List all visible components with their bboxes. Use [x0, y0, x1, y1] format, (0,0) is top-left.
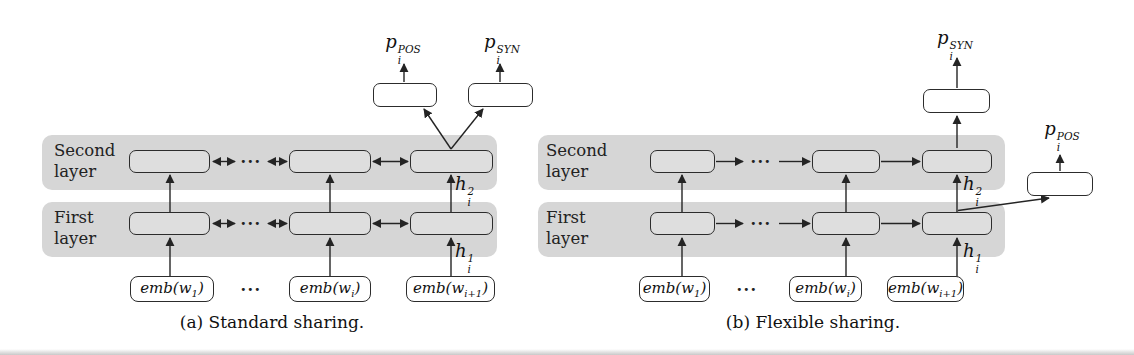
panel-a-h2-label: h2i: [455, 173, 474, 208]
panel-a-h1-label: h1i: [455, 240, 474, 275]
panel-a-second-layer-label: Second layer: [54, 141, 115, 182]
emb-wi-label: emb(wi): [795, 279, 855, 299]
math-base: h: [455, 173, 467, 194]
panel-b-caption: (b) Flexible sharing.: [726, 312, 900, 332]
math-sub: i: [976, 197, 979, 208]
math-sub: i: [468, 264, 471, 275]
math-base: h: [963, 240, 975, 261]
panel-b-first-layer-label: First layer: [546, 208, 588, 249]
panel-a-p-syn-label: pSYNi: [484, 31, 520, 66]
math-base: p: [937, 27, 949, 48]
ellipsis: ···: [240, 214, 261, 233]
math-sup: SYN: [497, 44, 520, 55]
panel-b-rnn-node: [650, 150, 715, 173]
math-sub: i: [976, 264, 979, 275]
figure-canvas: Second layer First layer ··· ··· ··· pPO…: [0, 0, 1134, 355]
panel-b-emb-w1-box: emb(w1): [639, 276, 710, 302]
ellipsis: ···: [750, 214, 771, 233]
panel-b-pos-output-box: [1027, 172, 1093, 196]
math-sub: i: [950, 51, 953, 62]
emb-w1-label: emb(w1): [140, 279, 204, 299]
panel-b-rnn-node: [922, 150, 992, 173]
ellipsis: ···: [750, 152, 771, 171]
panel-b-p-pos-label: pPOSi: [1044, 118, 1079, 153]
math-sub: i: [497, 55, 500, 66]
panel-b-p-syn-label: pSYNi: [937, 27, 973, 62]
ellipsis: ···: [240, 280, 261, 299]
panel-a-rnn-node: [289, 212, 371, 235]
math-base: p: [484, 31, 496, 52]
panel-a-rnn-node: [410, 212, 493, 235]
panel-a-pos-output-box: [373, 83, 437, 107]
panel-a-rnn-node: [410, 150, 493, 173]
panel-a-emb-wi1-box: emb(wi+1): [406, 276, 495, 302]
emb-w1-label: emb(w1): [643, 279, 707, 299]
panel-b-h1-label: h1i: [963, 240, 982, 275]
math-base: h: [455, 240, 467, 261]
math-sub: i: [468, 197, 471, 208]
panel-a-syn-output-box: [468, 83, 533, 107]
panel-a-emb-wi-box: emb(wi): [289, 276, 371, 302]
emb-wi-label: emb(wi): [300, 279, 360, 299]
panel-b-syn-output-box: [923, 89, 990, 113]
panel-b-rnn-node: [650, 212, 715, 235]
panel-a-rnn-node: [129, 150, 210, 173]
math-base: p: [385, 31, 397, 52]
math-sub: i: [1057, 142, 1060, 153]
panel-b-emb-wi-box: emb(wi): [789, 276, 862, 302]
math-sup: POS: [1057, 131, 1080, 142]
emb-wi1-label: emb(wi+1): [888, 279, 963, 299]
panel-b-rnn-node: [812, 212, 880, 235]
panel-b-second-layer-label: Second layer: [546, 141, 607, 182]
panel-b-rnn-node: [812, 150, 880, 173]
page-scan-shadow: [0, 349, 1134, 355]
panel-a-rnn-node: [289, 150, 371, 173]
panel-b-rnn-node: [922, 212, 992, 235]
math-sub: i: [398, 55, 401, 66]
ellipsis: ···: [240, 152, 261, 171]
math-sup: SYN: [950, 40, 973, 51]
ellipsis: ···: [736, 280, 757, 299]
panel-b-h2-label: h2i: [963, 173, 982, 208]
math-base: p: [1044, 118, 1056, 139]
panel-a-p-pos-label: pPOSi: [385, 31, 420, 66]
math-sup: POS: [398, 44, 421, 55]
emb-wi1-label: emb(wi+1): [413, 279, 488, 299]
panel-a-first-layer-label: First layer: [54, 208, 96, 249]
math-base: h: [963, 173, 975, 194]
panel-a-rnn-node: [129, 212, 210, 235]
panel-b-emb-wi1-box: emb(wi+1): [887, 276, 964, 302]
panel-a-emb-w1-box: emb(w1): [130, 276, 214, 302]
panel-a-caption: (a) Standard sharing.: [180, 312, 364, 332]
